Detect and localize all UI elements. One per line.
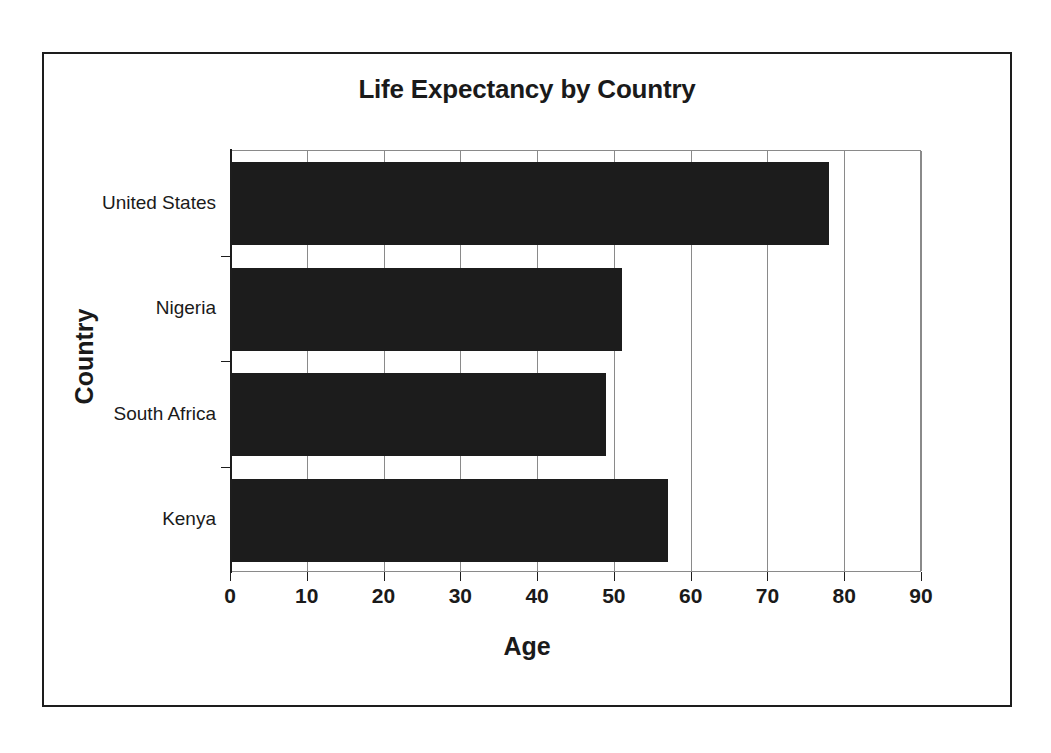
- category-label: South Africa: [114, 404, 216, 423]
- value-tick-label: 0: [224, 585, 236, 606]
- value-tick-label: 70: [756, 585, 779, 606]
- cropped-top-caption: [0, 0, 1051, 2]
- value-tick-label: 80: [833, 585, 856, 606]
- value-tick: [844, 572, 845, 581]
- value-tick: [614, 572, 615, 581]
- value-tick-label: 40: [525, 585, 548, 606]
- value-tick: [384, 572, 385, 581]
- value-axis-ticks: [230, 572, 921, 582]
- category-label: United States: [102, 193, 216, 212]
- value-tick: [691, 572, 692, 581]
- bar: [230, 479, 668, 562]
- x-axis-title: Age: [44, 632, 1010, 661]
- y-axis-title: Country: [64, 335, 106, 377]
- value-tick: [460, 572, 461, 581]
- category-tick: [221, 256, 230, 257]
- category-label: Nigeria: [156, 298, 216, 317]
- value-tick: [921, 572, 922, 581]
- y-axis-title-text: Country: [71, 308, 100, 404]
- value-tick-label: 20: [372, 585, 395, 606]
- value-tick-label: 90: [909, 585, 932, 606]
- chart-title: Life Expectancy by Country: [44, 74, 1010, 105]
- category-tick: [221, 361, 230, 362]
- value-tick-label: 60: [679, 585, 702, 606]
- value-tick: [307, 572, 308, 581]
- bar: [230, 373, 606, 456]
- value-tick-label: 50: [602, 585, 625, 606]
- category-tick: [221, 467, 230, 468]
- value-axis-line: [230, 149, 232, 573]
- plot-area: [230, 150, 921, 572]
- value-tick: [537, 572, 538, 581]
- bar-series: [230, 151, 920, 571]
- gridline: [921, 151, 922, 571]
- chart-frame: Life Expectancy by Country United States…: [42, 52, 1012, 707]
- value-tick: [230, 572, 231, 581]
- value-tick-label: 30: [449, 585, 472, 606]
- bar: [230, 162, 829, 245]
- category-label: Kenya: [162, 509, 216, 528]
- value-tick-label: 10: [295, 585, 318, 606]
- bar: [230, 268, 622, 351]
- value-tick: [767, 572, 768, 581]
- value-axis-labels: 0102030405060708090: [230, 585, 921, 615]
